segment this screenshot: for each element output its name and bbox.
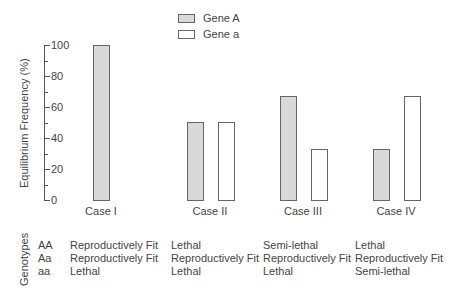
legend-label-gene-a: Gene a [203,29,239,40]
bar-Gene-A-Case-IV [373,149,390,201]
bar-Gene-A-Case-I [93,45,110,201]
y-tick-label: 100 [51,40,69,51]
y-tick [44,92,48,93]
genotype-fitness-cell: Lethal [171,239,201,252]
y-tick-label: 80 [51,71,63,82]
y-tick-label: 20 [51,164,63,175]
y-tick [44,154,48,155]
genotype-fitness-cell: Reproductively Fit [70,252,158,265]
genotype-fitness-cell: Lethal [263,265,293,278]
bar-Gene-a-Case-II [218,122,235,201]
genotype-fitness-cell: Reproductively Fit [171,252,259,265]
bar-Gene-A-Case-III [280,96,297,201]
y-tick [44,169,50,170]
case-label: Case III [263,205,343,217]
y-tick [44,107,50,108]
genotypes-title: Genotypes [18,233,30,286]
case-label: Case IV [356,205,436,217]
y-tick [44,76,50,77]
genotype-fitness-cell: Lethal [355,239,385,252]
y-tick [44,61,48,62]
case-label: Case II [170,205,250,217]
y-tick [44,138,50,139]
legend-label-gene-A: Gene A [203,13,240,24]
genotype-fitness-cell: Semi-lethal [263,239,318,252]
y-tick [44,200,50,201]
genotype-label: AA [38,239,53,252]
genotype-fitness-cell: Lethal [70,265,100,278]
y-axis-label: Equilibrium Frequency (%) [18,58,30,188]
case-label: Case I [61,205,141,217]
y-tick-label: 60 [51,102,63,113]
bar-Gene-A-Case-II [187,122,204,201]
genotype-label: aa [38,265,50,278]
y-tick [44,123,48,124]
genotype-label: Aa [38,252,51,265]
legend-swatch-gene-A [178,14,195,23]
y-tick [44,185,48,186]
y-tick-label: 0 [51,195,57,206]
y-tick-label: 40 [51,133,63,144]
genotype-fitness-cell: Semi-lethal [355,265,410,278]
bar-Gene-a-Case-III [311,149,328,201]
y-tick [44,45,50,46]
genotype-fitness-cell: Lethal [171,265,201,278]
genotype-fitness-cell: Reproductively Fit [355,252,443,265]
genotype-fitness-cell: Reproductively Fit [263,252,351,265]
genotype-fitness-cell: Reproductively Fit [70,239,158,252]
bar-Gene-a-Case-IV [404,96,421,201]
legend-swatch-gene-a [178,30,195,39]
